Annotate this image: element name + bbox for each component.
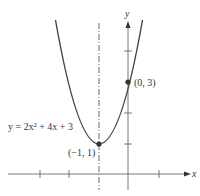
parabola-graph: y x (0, 3) (−1, 1) y = 2x² + 4x + 3 xyxy=(0,0,200,196)
y-axis-label: y xyxy=(124,8,130,19)
vertex-point xyxy=(96,141,101,146)
x-axis-arrow-icon xyxy=(184,172,191,177)
y-intercept-point xyxy=(125,79,130,84)
equation-label: y = 2x² + 4x + 3 xyxy=(8,121,73,132)
vertex-label: (−1, 1) xyxy=(68,147,95,159)
intercept-label: (0, 3) xyxy=(134,77,156,89)
graph-canvas: y x (0, 3) (−1, 1) y = 2x² + 4x + 3 xyxy=(0,0,200,196)
y-axis-arrow-icon xyxy=(126,21,131,28)
x-axis-label: x xyxy=(191,168,197,179)
